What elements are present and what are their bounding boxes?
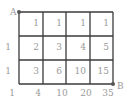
cell-path-count: 1 [89,18,109,28]
cell-path-count: 6 [42,66,62,76]
cell-path-count: 4 [66,42,86,52]
left-edge-path-count: 1 [0,42,16,52]
cell-path-count: 15 [89,66,109,76]
end-point-marker [111,82,115,86]
corner-label-end: B [117,81,124,91]
bottom-edge-path-count: 10 [54,88,70,98]
bottom-edge-path-count: 4 [30,88,46,98]
cell-path-count: 1 [19,18,39,28]
cell-path-count: 5 [89,42,109,52]
bottom-edge-path-count: 35 [100,88,116,98]
cell-path-count: 2 [19,42,39,52]
left-edge-path-count: 1 [0,66,16,76]
cell-path-count: 3 [42,42,62,52]
cell-path-count: 3 [19,66,39,76]
bottom-edge-path-count: 20 [78,88,94,98]
cell-path-count: 1 [66,18,86,28]
cell-path-count: 1 [42,18,62,28]
cell-path-count: 10 [66,66,86,76]
bottom-edge-path-count: 1 [4,88,20,98]
corner-label-start: A [10,7,17,17]
start-point-marker [17,10,21,14]
